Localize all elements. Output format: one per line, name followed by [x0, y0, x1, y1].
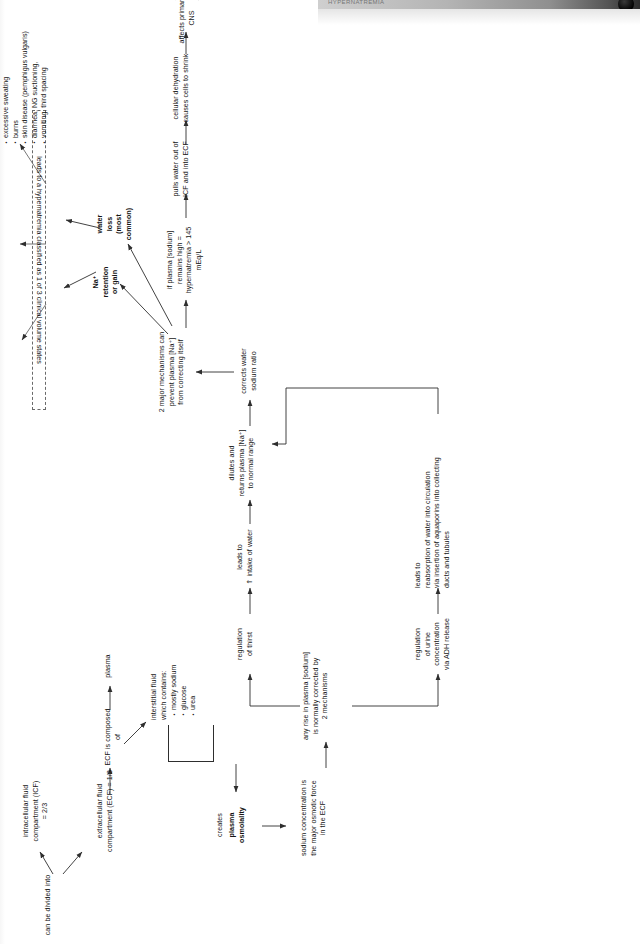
node-water-loss: water loss (most common)	[96, 204, 134, 244]
node-two-major-mechanisms: 2 major mechanisms can prevent plasma [N…	[158, 324, 187, 420]
node-any-rise-in-sodium: any rise in plasma [sodium] is normally …	[302, 646, 331, 746]
interstitial-fluid-contents: mostly sodium glucose urea	[170, 626, 199, 716]
node-pulls-water-icf-to-ecf: pulls water out of ICF and into ECF	[172, 140, 191, 198]
list-item: mostly sodium	[170, 626, 180, 716]
list-item: glucose	[180, 626, 190, 716]
node-plasma-osmolality: plasma osmolality	[228, 798, 247, 852]
node-regulation-of-thirst: regulation of thirst	[236, 618, 255, 670]
cause-connector-layer	[0, 0, 80, 944]
node-regulation-of-urine-adh: regulation of urine concentration via AD…	[414, 616, 452, 672]
scanned-page: HYPERNATREMIA	[0, 0, 640, 944]
concept-map-canvas: can be divided into intracellular fluid …	[0, 0, 640, 944]
node-interstitial-fluid: interstitial fluid which contains:	[150, 628, 169, 720]
node-ecf: extracellular fluid compartment (ECF) = …	[96, 766, 115, 856]
node-creates: creates	[216, 802, 226, 848]
node-affects-primarily-cns: affects primarily CNS	[178, 0, 197, 44]
node-cellular-dehydration: cellular dehydration causes cells to shr…	[172, 50, 191, 126]
concept-map-viewport: can be divided into intracellular fluid …	[0, 0, 640, 944]
node-leads-to-intake-of-water: leads to ⇑ intake of water	[236, 524, 255, 590]
node-sodium-osmotic-force: sodium concentration is the major osmoti…	[300, 770, 329, 866]
interstitial-bracket	[168, 725, 214, 762]
node-ecf-composed-of: ECF is composed of	[104, 708, 123, 766]
node-reabsorption-aquaporins: leads to reabsorption of water into circ…	[414, 412, 452, 588]
node-hypernatremia-threshold: if plasma [sodium] remains high = hypern…	[166, 216, 204, 304]
node-plasma: plasma	[104, 648, 114, 684]
node-dilutes-returns-sodium: dilutes and returns plasma [Na⁺] to norm…	[228, 424, 257, 502]
node-sodium-retention-or-gain: Na⁺ retention or gain	[92, 260, 121, 304]
node-corrects-water-sodium-ratio: corrects water sodium ratio	[240, 342, 259, 400]
list-item: urea	[189, 626, 199, 716]
